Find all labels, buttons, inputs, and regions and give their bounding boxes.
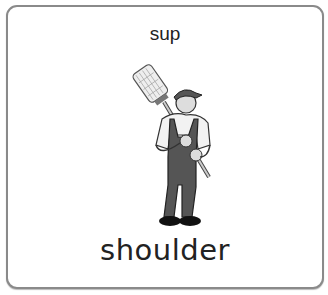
man-with-broom-illustration xyxy=(124,57,224,237)
word-card: sup shoulder xyxy=(6,5,324,289)
word-label: shoulder xyxy=(8,233,322,267)
top-label: sup xyxy=(8,23,322,45)
